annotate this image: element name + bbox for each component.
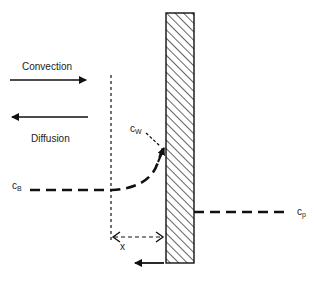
cb-sub: B — [17, 185, 22, 192]
concentration-profile — [30, 148, 164, 190]
cw-sub: W — [135, 128, 142, 135]
cp-sub: p — [302, 211, 306, 218]
diffusion-label: Diffusion — [31, 133, 70, 144]
cp-label: cp — [297, 206, 306, 217]
x-label: x — [120, 241, 125, 252]
cb-label: cB — [12, 180, 22, 191]
convection-label: Convection — [22, 61, 72, 72]
cw-leader-line — [146, 133, 160, 146]
membrane-wall — [166, 13, 194, 263]
cw-label: cW — [130, 123, 142, 134]
